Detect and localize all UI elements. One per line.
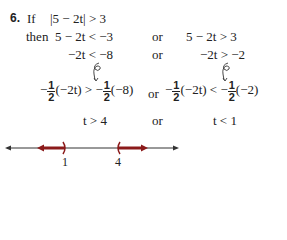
row3-left: −12(−2t) > −12(−8)	[40, 80, 133, 103]
minus: −	[40, 82, 47, 97]
row3-right-mid: (−2t) < −	[180, 82, 227, 97]
row4-left: t > 4	[83, 114, 107, 127]
fraction: 12	[228, 80, 236, 103]
row4-right: t < 1	[213, 114, 237, 127]
row3-or: or	[148, 87, 159, 100]
row3-left-end: (−8)	[111, 82, 134, 97]
flip-arrow-icon	[94, 63, 229, 81]
minus: −	[165, 82, 172, 97]
row4-or: or	[152, 114, 163, 127]
row3-left-mid: (−2t) > −	[55, 82, 102, 97]
right-arrowhead-icon	[173, 146, 179, 151]
tick-label-4: 4	[115, 156, 121, 168]
left-arrowhead-icon	[5, 146, 11, 151]
number-line	[5, 142, 179, 154]
fraction: 12	[103, 80, 111, 103]
row3-right-end: (−2)	[236, 82, 259, 97]
row3-right: −12(−2t) < −12(−2)	[165, 80, 258, 103]
tick-label-1: 1	[62, 156, 68, 168]
